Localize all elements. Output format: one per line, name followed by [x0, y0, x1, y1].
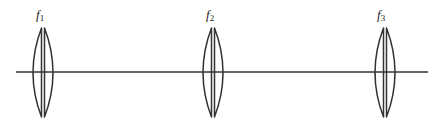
label-f1: f1: [36, 8, 44, 23]
label-f3: f3: [377, 8, 385, 23]
label-f2: f2: [206, 8, 214, 23]
